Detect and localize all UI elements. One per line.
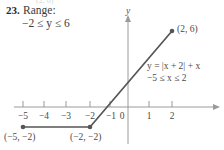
x-tick-label--2: −2 [85, 112, 95, 122]
point-label-upper-right: (2, 6) [177, 25, 198, 35]
point-label-vertex: (−2, −2) [70, 133, 101, 143]
x-tick-label-2: 2 [170, 112, 175, 122]
x-axis-arrow [213, 104, 220, 110]
x-tick-label--5: −5 [18, 112, 28, 122]
y-axis-label: y [126, 7, 130, 17]
point-marker-upper-right [170, 29, 175, 34]
point-label-left-end: (−5, −2) [4, 133, 35, 143]
equation-line-2: −5 ≤ x ≤ 2 [147, 74, 187, 84]
x-tick-label-1: 1 [147, 112, 152, 122]
x-tick-label--1: −1 [106, 112, 116, 122]
x-tick-label--4: −4 [39, 112, 49, 122]
equation-line-1: y = |x + 2| + x [147, 62, 200, 72]
point-marker-vertex [88, 125, 93, 130]
x-axis-ticks [23, 101, 172, 107]
x-tick-label--3: −3 [61, 112, 71, 122]
point-marker-left-end [21, 125, 26, 130]
graph-figure [0, 0, 224, 150]
x-tick-label-0: 0 [120, 112, 125, 122]
